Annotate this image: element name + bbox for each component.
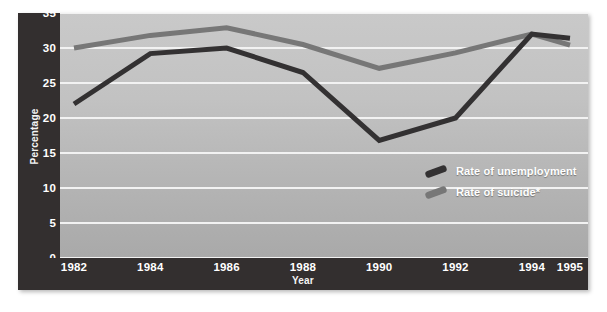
legend-label-suicide: Rate of suicide* xyxy=(456,186,540,198)
y-tick-label: 30 xyxy=(43,42,56,54)
x-tick-label: 1984 xyxy=(137,261,163,273)
x-tick-label: 1982 xyxy=(61,261,87,273)
y-axis-panel: Percentage 05101520253035 xyxy=(18,13,60,290)
x-tick-label: 1992 xyxy=(442,261,468,273)
x-tick-label: 1986 xyxy=(213,261,239,273)
y-tick-label: 10 xyxy=(43,182,56,194)
legend-item-suicide: Rate of suicide* xyxy=(425,186,577,198)
y-tick-label: 25 xyxy=(43,77,56,89)
y-tick-label: 35 xyxy=(43,7,56,19)
y-tick-label: 15 xyxy=(43,147,56,159)
x-axis-title: Year xyxy=(18,275,588,286)
chart-legend: Rate of unemployment Rate of suicide* xyxy=(425,165,577,198)
legend-item-unemployment: Rate of unemployment xyxy=(425,165,577,177)
y-tick-label: 5 xyxy=(49,217,56,229)
legend-swatch-unemployment xyxy=(424,164,447,178)
series-line xyxy=(74,28,570,69)
legend-label-unemployment: Rate of unemployment xyxy=(456,165,577,177)
x-tick-label: 1994 xyxy=(519,261,545,273)
x-axis-panel: Year 19821984198619881990199219941995 xyxy=(18,258,588,290)
x-tick-label: 1990 xyxy=(366,261,392,273)
chart-figure: Percentage 05101520253035 Rate of unempl… xyxy=(18,13,588,290)
x-tick-label: 1988 xyxy=(290,261,316,273)
legend-swatch-suicide xyxy=(424,185,447,199)
y-axis-title: Percentage xyxy=(29,91,40,183)
series-lines xyxy=(60,13,588,258)
y-tick-label: 20 xyxy=(43,112,56,124)
x-tick-label: 1995 xyxy=(557,261,583,273)
plot-area: Rate of unemployment Rate of suicide* xyxy=(60,13,588,258)
